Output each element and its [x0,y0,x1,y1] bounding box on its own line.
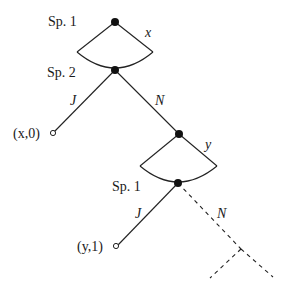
action-label-J1: J [70,93,77,108]
decision-node-n3 [175,130,183,138]
edge-n3-right [179,134,217,166]
decision-node-sp2 [111,66,119,74]
dashed-continuation-right [241,249,273,277]
player-label-sp1-top: Sp. 1 [48,14,77,29]
payoff-label-1: (x,0) [13,126,40,142]
edge-root-left [77,22,115,52]
game-tree-diagram: Sp. 1 Sp. 2 Sp. 1 x y J N J N (x,0) (y,1… [0,0,287,288]
action-label-N2: N [216,206,227,221]
dashed-continuation-left [210,249,241,278]
edge-N-2-dashed [178,183,241,249]
decision-node-sp1-bottom [174,179,182,187]
choice-label-x: x [144,25,152,40]
edge-n3-left [140,134,179,166]
terminal-node-2 [113,243,118,248]
player-label-sp2: Sp. 2 [47,65,76,80]
payoff-label-2: (y,1) [77,239,103,255]
action-label-N1: N [154,93,165,108]
player-label-sp1-bottom: Sp. 1 [112,179,141,194]
decision-node-root [111,18,119,26]
action-label-J2: J [135,206,142,221]
continuum-arc-x [77,52,153,68]
terminal-node-1 [50,130,55,135]
edge-N-1 [115,70,179,134]
choice-label-y: y [203,137,212,152]
